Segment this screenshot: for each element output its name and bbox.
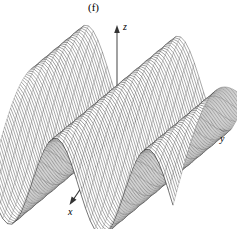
figure-panel: (f) z y x — [0, 0, 237, 229]
wireframe-mesh-surface — [0, 25, 237, 229]
axis-label-z: z — [123, 22, 127, 32]
arrow-up-icon — [114, 25, 120, 33]
axis-label-y: y — [220, 134, 224, 144]
surface-plot-canvas — [0, 0, 237, 229]
axis-label-x: x — [68, 207, 72, 217]
arrow-down-left-icon — [70, 196, 77, 205]
